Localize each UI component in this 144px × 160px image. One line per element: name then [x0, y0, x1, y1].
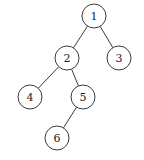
- edge-1-2: [73, 26, 87, 48]
- edge-2-4: [38, 67, 58, 89]
- tree-node-4: 4: [18, 85, 42, 109]
- tree-node-1: 1: [82, 4, 106, 28]
- edge-5-6: [63, 107, 76, 128]
- node-label: 5: [80, 91, 87, 104]
- tree-node-2: 2: [55, 46, 79, 70]
- edge-2-5: [72, 69, 79, 86]
- node-label: 3: [116, 52, 123, 65]
- node-label: 1: [91, 10, 98, 23]
- tree-node-6: 6: [45, 126, 69, 150]
- tree-edges: [38, 26, 113, 128]
- tree-node-3: 3: [107, 46, 131, 70]
- binary-tree-diagram: 123456: [0, 0, 144, 160]
- edge-1-3: [100, 26, 113, 47]
- tree-node-5: 5: [71, 85, 95, 109]
- node-label: 6: [54, 132, 61, 145]
- node-label: 4: [27, 91, 34, 104]
- node-label: 2: [64, 52, 71, 65]
